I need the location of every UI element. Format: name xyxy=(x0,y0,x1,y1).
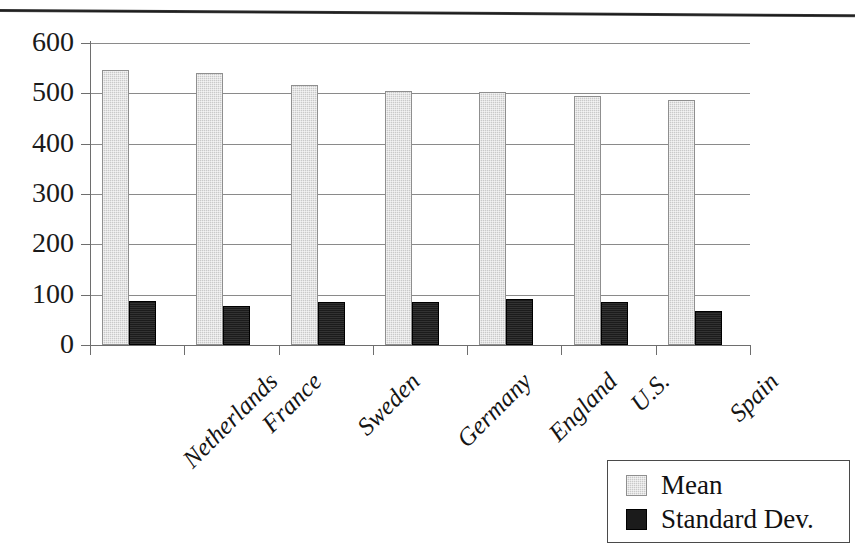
y-axis-tick xyxy=(81,93,90,94)
gridline xyxy=(90,93,750,94)
bar-mean xyxy=(574,96,601,345)
bar-standard-dev xyxy=(695,311,722,345)
y-axis-tick-label: 300 xyxy=(8,179,74,207)
x-axis-tick xyxy=(750,345,751,355)
y-axis-tick xyxy=(81,295,90,296)
bar-chart: 6005004003002001000 NetherlandsFranceSwe… xyxy=(0,0,855,545)
x-axis-tick xyxy=(656,345,657,355)
x-axis-category-label: Sweden xyxy=(353,368,425,440)
legend-label-standard-dev: Standard Dev. xyxy=(661,506,814,533)
bar-mean xyxy=(102,70,129,345)
y-axis-tick-label: 600 xyxy=(8,28,74,56)
legend-item-standard-dev: Standard Dev. xyxy=(626,502,849,536)
gridline xyxy=(90,295,750,296)
x-axis-tick xyxy=(279,345,280,355)
bar-standard-dev xyxy=(318,302,345,345)
bar-mean xyxy=(668,100,695,345)
bar-standard-dev xyxy=(601,302,628,345)
chart-legend: Mean Standard Dev. xyxy=(607,460,850,543)
x-axis-category-label: Spain xyxy=(724,368,782,426)
bar-mean xyxy=(196,73,223,345)
x-axis-tick xyxy=(561,345,562,355)
y-axis-line xyxy=(90,41,91,349)
y-axis-tick xyxy=(81,244,90,245)
legend-item-mean: Mean xyxy=(626,468,849,502)
bar-mean xyxy=(385,91,412,345)
bar-mean xyxy=(479,92,506,345)
y-axis-tick xyxy=(81,345,90,346)
gridline xyxy=(90,43,750,44)
y-axis-tick xyxy=(81,144,90,145)
y-axis-labels: 6005004003002001000 xyxy=(0,0,74,545)
x-axis-tick xyxy=(373,345,374,355)
x-axis-tick xyxy=(467,345,468,355)
x-axis-tick xyxy=(184,345,185,355)
x-axis-line xyxy=(90,345,750,346)
legend-swatch-mean-icon xyxy=(626,475,647,496)
gridline xyxy=(90,244,750,245)
y-axis-tick-label: 100 xyxy=(8,280,74,308)
bar-mean xyxy=(291,85,318,345)
gridline xyxy=(90,144,750,145)
y-axis-tick xyxy=(81,194,90,195)
plot-area xyxy=(90,43,750,345)
x-axis-category-label: Germany xyxy=(452,368,535,451)
y-axis-tick-label: 400 xyxy=(8,129,74,157)
legend-label-mean: Mean xyxy=(661,472,722,499)
y-axis-tick-label: 200 xyxy=(8,229,74,257)
y-axis-tick-label: 500 xyxy=(8,78,74,106)
y-axis-tick xyxy=(81,43,90,44)
x-axis-category-label: England xyxy=(544,368,622,446)
bar-standard-dev xyxy=(412,302,439,345)
bar-standard-dev xyxy=(129,301,156,345)
gridline xyxy=(90,194,750,195)
x-axis-tick xyxy=(90,345,91,355)
y-axis-tick-label: 0 xyxy=(8,330,74,358)
bar-standard-dev xyxy=(223,306,250,345)
legend-swatch-standard-dev-icon xyxy=(626,509,647,530)
bar-standard-dev xyxy=(506,299,533,345)
x-axis-category-label: U.S. xyxy=(626,368,674,416)
